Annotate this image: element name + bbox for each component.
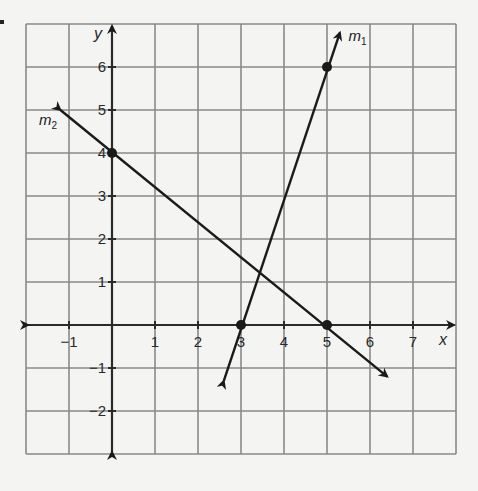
point-m2 xyxy=(322,320,332,330)
grid xyxy=(26,24,456,454)
line-labels: m1m2 xyxy=(39,27,367,131)
point-m1 xyxy=(236,320,246,330)
y-tick-label: 5 xyxy=(98,101,106,118)
x-tick-label: 4 xyxy=(280,333,288,350)
y-tick-label: 1 xyxy=(98,273,106,290)
x-axis-label: x xyxy=(438,331,448,348)
coordinate-plane: −11234567−2−1123456xy m1m2 xyxy=(0,0,478,491)
x-tick-label: 1 xyxy=(151,333,159,350)
point-m2 xyxy=(107,148,117,158)
tick-labels: −11234567−2−1123456xy xyxy=(60,25,448,419)
label-m2: m2 xyxy=(39,111,58,131)
x-tick-label: 5 xyxy=(323,333,331,350)
y-tick-label: 3 xyxy=(98,187,106,204)
x-tick-label: −1 xyxy=(60,333,77,350)
y-tick-label: −2 xyxy=(89,402,106,419)
x-tick-label: 2 xyxy=(194,333,202,350)
lines xyxy=(60,33,387,381)
corner-mark xyxy=(0,20,4,24)
point-m1 xyxy=(322,62,332,72)
label-m1: m1 xyxy=(349,27,368,47)
y-axis-label: y xyxy=(93,25,103,42)
y-tick-label: 6 xyxy=(98,58,106,75)
x-tick-label: 7 xyxy=(409,333,417,350)
y-tick-label: 2 xyxy=(98,230,106,247)
x-tick-label: 6 xyxy=(366,333,374,350)
y-tick-label: −1 xyxy=(89,359,106,376)
